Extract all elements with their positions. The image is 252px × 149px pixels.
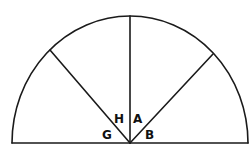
semicircle-diagram: H A G B	[0, 0, 252, 149]
left-radius	[50, 50, 130, 143]
angle-label-h: H	[114, 112, 124, 126]
angle-label-a: A	[133, 112, 143, 126]
angle-label-g: G	[102, 128, 112, 142]
right-radius	[130, 54, 213, 143]
angle-label-b: B	[145, 128, 154, 142]
